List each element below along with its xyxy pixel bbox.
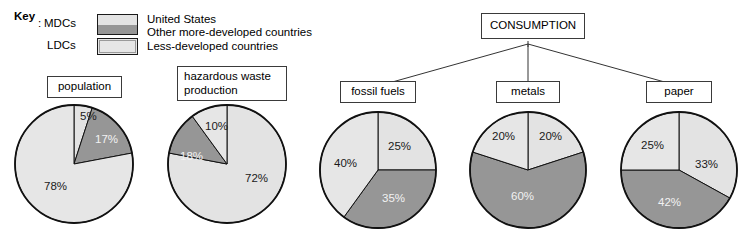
connector-to-fossil-fuels — [378, 44, 528, 86]
pie-label-paper-other-mdcs: 42% — [658, 196, 681, 208]
pie-label-fossil-fuels-ldcs: 40% — [334, 157, 357, 169]
consumption-header-box: CONSUMPTION — [481, 13, 585, 39]
pie-label-population-ldcs: 78% — [44, 180, 67, 192]
caption-metals: metals — [496, 81, 560, 103]
pie-chart-fossil-fuels — [320, 112, 436, 228]
pie-label-hazardous-waste-other-mdcs: 18% — [180, 150, 203, 162]
pie-label-population-united-states: 5% — [80, 110, 97, 122]
pie-label-paper-united-states: 33% — [695, 158, 718, 170]
pie-label-hazardous-waste-united-states: 72% — [245, 172, 268, 184]
pie-chart-paper — [621, 112, 737, 228]
pie-label-hazardous-waste-ldcs: 10% — [205, 120, 228, 132]
pie-label-fossil-fuels-united-states: 25% — [388, 140, 411, 152]
figure-canvas — [0, 0, 747, 245]
pie-label-fossil-fuels-other-mdcs: 35% — [382, 192, 405, 204]
connector-to-paper — [528, 44, 679, 86]
caption-fossil-fuels: fossil fuels — [340, 81, 416, 103]
pie-label-metals-ldcs: 20% — [492, 130, 515, 142]
caption-paper: paper — [646, 81, 712, 103]
pie-label-paper-ldcs: 25% — [641, 139, 664, 151]
pie-chart-population — [15, 105, 133, 223]
pie-chart-metals — [470, 112, 586, 228]
pie-label-metals-other-mdcs: 60% — [511, 190, 534, 202]
pie-label-metals-united-states: 20% — [539, 130, 562, 142]
consumption-connector-lines — [378, 41, 679, 86]
figure-root: Key : MDCs LDCs United States Other more… — [0, 0, 747, 245]
pie-label-population-other-mdcs: 17% — [95, 133, 118, 145]
caption-population: population — [47, 76, 122, 98]
caption-hazardous-waste: hazardous waste production — [177, 66, 287, 101]
